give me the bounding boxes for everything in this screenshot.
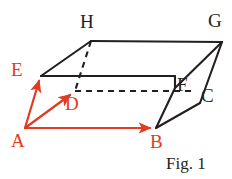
- vectors-group: [25, 81, 150, 128]
- vertex-label-c: C: [201, 86, 214, 105]
- edge-h-d-hidden: [75, 41, 91, 91]
- figure-container: H G E F C D A B Fig. 1: [0, 0, 232, 179]
- edge-h-g: [91, 41, 222, 42]
- edge-e-h: [41, 41, 91, 76]
- solid-edges-group: [41, 41, 222, 128]
- vertex-label-d: D: [65, 94, 79, 113]
- vertex-label-g: G: [208, 11, 222, 30]
- vector-a-e: [25, 81, 39, 128]
- vertex-label-h: H: [80, 12, 94, 31]
- vertex-label-b: B: [150, 132, 163, 151]
- parallelepiped-diagram: [0, 0, 232, 179]
- vertex-label-e: E: [11, 60, 23, 79]
- vertex-label-a: A: [11, 131, 25, 150]
- vector-a-d: [25, 95, 70, 128]
- figure-caption: Fig. 1: [166, 155, 206, 172]
- vertex-label-f: F: [177, 75, 188, 94]
